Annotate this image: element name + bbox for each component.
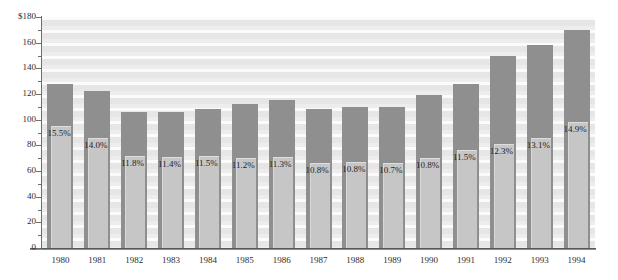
bar-percent-label: 11.8%	[121, 158, 144, 168]
x-axis-tick-label: 1984	[188, 255, 228, 265]
x-axis-tick-label: 1986	[262, 255, 302, 265]
y-axis-tick-label: 0	[0, 243, 36, 252]
x-axis-tick-label: 1993	[520, 255, 560, 265]
y-axis-tick	[36, 17, 41, 18]
bar-subset[interactable]	[199, 156, 219, 248]
bar-subset[interactable]	[162, 157, 182, 248]
x-axis-tick-label: 1992	[483, 255, 523, 265]
x-axis-tick-label: 1990	[409, 255, 449, 265]
x-axis-tick-label: 1987	[299, 255, 339, 265]
bar-percent-label: 13.1%	[527, 140, 550, 150]
y-axis-tick	[36, 248, 41, 249]
x-axis-tick-label: 1988	[335, 255, 375, 265]
y-axis-minor-tick	[38, 30, 41, 31]
bar-percent-label: 15.5%	[47, 128, 70, 138]
chart-title-faint	[46, 0, 346, 7]
y-axis-minor-tick	[38, 56, 41, 57]
bar-subset[interactable]	[531, 138, 551, 248]
y-axis-tick-label: 120	[0, 89, 36, 98]
x-axis-tick-label: 1985	[225, 255, 265, 265]
bar-subset[interactable]	[420, 158, 440, 248]
bar-percent-label: 10.8%	[416, 160, 439, 170]
y-axis-tick	[36, 145, 41, 146]
y-axis-minor-tick	[38, 133, 41, 134]
bar-subset[interactable]	[568, 122, 588, 248]
bar-percent-label: 14.9%	[564, 124, 587, 134]
y-axis-tick-label: 40	[0, 192, 36, 201]
bar-percent-label: 10.8%	[342, 164, 365, 174]
y-axis-tick	[36, 94, 41, 95]
bar-percent-label: 11.4%	[158, 159, 181, 169]
bar-percent-label: 11.5%	[195, 158, 218, 168]
x-axis-tick-label: 1983	[151, 255, 191, 265]
bar-subset[interactable]	[125, 156, 145, 248]
y-axis-tick-label: 140	[0, 63, 36, 72]
bar-subset[interactable]	[346, 162, 366, 248]
y-axis-tick-label: 80	[0, 140, 36, 149]
bar-chart: 15.5%14.0%11.8%11.4%11.5%11.2%11.3%10.8%…	[0, 0, 618, 280]
y-axis-labels: $180160140120100806040200	[0, 0, 36, 280]
y-axis-tick-label: 100	[0, 115, 36, 124]
bar-subset[interactable]	[88, 138, 108, 248]
bar-subset[interactable]	[236, 158, 256, 248]
bar-subset[interactable]	[273, 157, 293, 248]
x-axis-tick-label: 1991	[446, 255, 486, 265]
x-axis-tick-label: 1994	[557, 255, 597, 265]
bar-subset[interactable]	[310, 163, 330, 248]
x-axis-tick-label: 1982	[114, 255, 154, 265]
y-axis-minor-tick	[38, 210, 41, 211]
y-axis-tick	[36, 120, 41, 121]
y-axis-minor-tick	[38, 107, 41, 108]
y-axis-tick-label: 60	[0, 166, 36, 175]
bar-percent-label: 11.3%	[269, 159, 292, 169]
y-axis-tick-label: 20	[0, 217, 36, 226]
y-axis-tick	[36, 68, 41, 69]
y-axis-tick-label: $180	[0, 12, 36, 21]
bar-percent-label: 12.3%	[490, 146, 513, 156]
bar-percent-label: 14.0%	[84, 140, 107, 150]
x-axis-line-shadow	[30, 249, 596, 250]
plot-area: 15.5%14.0%11.8%11.4%11.5%11.2%11.3%10.8%…	[42, 17, 595, 248]
x-axis-tick-label: 1989	[372, 255, 412, 265]
y-axis-minor-tick	[38, 158, 41, 159]
y-axis-line	[41, 16, 42, 249]
y-axis-tick-label: 160	[0, 38, 36, 47]
bar-subset[interactable]	[494, 144, 514, 248]
y-axis-tick	[36, 171, 41, 172]
bar-percent-label: 11.5%	[453, 152, 476, 162]
x-axis-tick-label: 1981	[77, 255, 117, 265]
bar-subset[interactable]	[51, 126, 71, 248]
y-axis-tick	[36, 197, 41, 198]
bar-percent-label: 10.7%	[379, 165, 402, 175]
y-axis-minor-tick	[38, 81, 41, 82]
y-axis-tick	[36, 43, 41, 44]
bar-subset[interactable]	[383, 163, 403, 248]
y-axis-minor-tick	[38, 235, 41, 236]
x-axis-tick-label: 1980	[40, 255, 80, 265]
bar-percent-label: 10.8%	[306, 165, 329, 175]
y-axis-tick	[36, 222, 41, 223]
bar-subset[interactable]	[457, 150, 477, 248]
bar-percent-label: 11.2%	[232, 160, 255, 170]
y-axis-minor-tick	[38, 184, 41, 185]
